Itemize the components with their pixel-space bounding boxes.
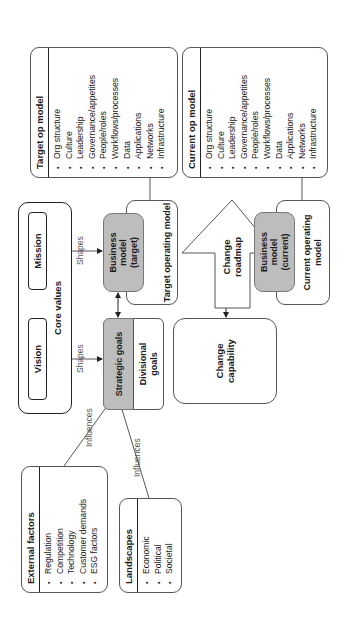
list-item: Governance/appetites [239,54,251,169]
list-item: Governance/appetites [87,54,99,169]
list-item: Applications [285,54,297,169]
target-op-model-list: Org structure Culture Leadership Governa… [49,48,168,177]
strategic-goals-box: Strategic goals [103,318,134,410]
change-capability-box: Change capability [173,318,277,404]
list-item: Customer demands [78,473,90,584]
list-item: Applications [133,54,145,169]
influences-label-external: Influences [84,408,94,447]
current-operating-model-label: Current operating model [302,209,323,296]
list-item: People/roles [250,54,262,169]
list-item: Economic [141,505,153,584]
list-item: Technology [66,473,78,584]
diagram-canvas: Target op model Org structure Culture Le… [0,0,341,627]
current-op-model-title: Current op model [183,48,201,177]
list-item: Infrastructure [156,54,168,169]
business-model-current-box: Business model (current) [254,212,295,292]
target-operating-model-label: Target operating model [162,201,172,304]
change-roadmap-label: Change roadmap [212,227,252,287]
core-values-label: Core values [52,203,63,413]
current-op-model-list: Org structure Culture Leadership Governa… [201,48,320,177]
list-item: Societal [164,505,176,584]
business-model-target-box: Business model (target) [103,213,144,292]
list-item: ESG factors [89,473,101,584]
target-op-model-title: Target op model [31,48,49,177]
list-item: Leadership [75,54,87,169]
list-item: Networks [145,54,157,169]
external-factors-box: External factors Regulation Competition … [21,466,108,593]
list-item: People/roles [98,54,110,169]
vision-box: Vision [28,318,47,400]
list-item: Competition [55,473,67,584]
external-factors-list: Regulation Competition Technology Custom… [40,467,101,592]
list-item: Org structure [52,54,64,169]
list-item: Culture [216,54,228,169]
list-item: Networks [297,54,309,169]
shapes-label-vision: Shapes [75,344,85,373]
divisional-goals-box: Divisional goals [133,318,164,410]
list-item: Org structure [204,54,216,169]
mission-box: Mission [28,212,47,290]
list-item: Culture [64,54,76,169]
shapes-label-mission: Shapes [75,236,85,265]
list-item: Workflows/processes [262,54,274,169]
list-item: Data [274,54,286,169]
target-op-model-box: Target op model Org structure Culture Le… [30,47,178,178]
landscapes-list: Economic Political Societal [138,499,176,592]
list-item: Workflows/processes [110,54,122,169]
landscapes-box: Landscapes Economic Political Societal [119,498,182,593]
list-item: Regulation [43,473,55,584]
list-item: Leadership [227,54,239,169]
landscapes-title: Landscapes [120,499,138,592]
list-item: Political [153,505,165,584]
list-item: Infrastructure [308,54,320,169]
influences-label-landscapes: Influences [132,438,142,477]
current-op-model-box: Current op model Org structure Culture L… [182,47,328,178]
external-factors-title: External factors [22,467,40,592]
list-item: Data [122,54,134,169]
